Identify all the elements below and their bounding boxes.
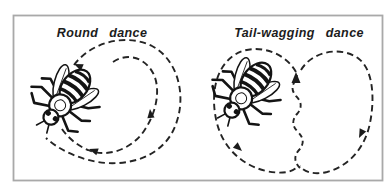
bee-dance-figure: Round dance Tail-wagging dance [0, 0, 390, 193]
round-dance-title: Round dance [57, 26, 148, 40]
tail-wagging-dance-title: Tail-wagging dance [234, 26, 364, 40]
figure-canvas: Round dance Tail-wagging dance [0, 0, 390, 193]
